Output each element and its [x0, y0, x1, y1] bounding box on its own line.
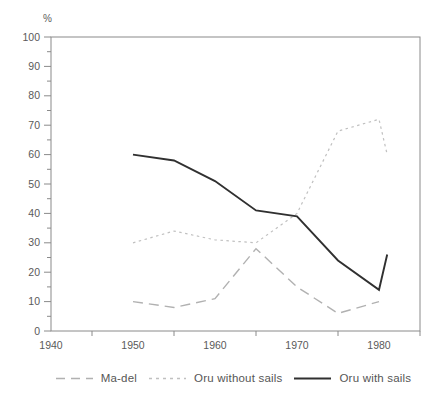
legend-label: Oru with sails — [339, 372, 411, 384]
x-tick-label: 1980 — [367, 339, 391, 351]
y-tick-label: 10 — [28, 295, 40, 307]
x-tick-label: 1950 — [121, 339, 145, 351]
series-line-ma-del — [133, 249, 379, 314]
y-axis-unit-label: % — [43, 13, 52, 24]
plot-svg: 0102030405060708090100194019501960197019… — [0, 0, 443, 372]
legend-item-ma-del: Ma-del — [56, 372, 137, 384]
y-tick-label: 100 — [22, 31, 40, 43]
x-tick-label: 1970 — [285, 339, 309, 351]
y-axis: 0102030405060708090100 — [22, 31, 51, 337]
series-line-oru-without-sails — [133, 119, 387, 242]
y-tick-label: 90 — [28, 60, 40, 72]
y-tick-label: 50 — [28, 178, 40, 190]
y-tick-label: 20 — [28, 266, 40, 278]
legend-item-oru-with-sails: Oru with sails — [294, 372, 411, 384]
x-tick-label: 1940 — [39, 339, 63, 351]
y-tick-label: 70 — [28, 119, 40, 131]
legend-line-sample-oru-with-sails — [294, 375, 331, 382]
legend-label: Oru without sails — [194, 372, 282, 384]
series-line-oru-with-sails — [133, 155, 387, 290]
y-tick-label: 60 — [28, 148, 40, 160]
legend: Ma-delOru without sailsOru with sails — [0, 372, 443, 384]
x-tick-label: 1960 — [203, 339, 227, 351]
y-tick-label: 80 — [28, 89, 40, 101]
legend-line-sample-ma-del — [56, 375, 93, 382]
x-axis: 19401950196019701980 — [39, 331, 420, 351]
legend-label: Ma-del — [101, 372, 137, 384]
legend-line-sample-oru-without-sails — [149, 375, 186, 382]
plot-border — [51, 37, 420, 331]
legend-item-oru-without-sails: Oru without sails — [149, 372, 282, 384]
y-tick-label: 30 — [28, 236, 40, 248]
chart-figure: 0102030405060708090100194019501960197019… — [0, 0, 443, 404]
y-tick-label: 0 — [34, 325, 40, 337]
y-tick-label: 40 — [28, 207, 40, 219]
